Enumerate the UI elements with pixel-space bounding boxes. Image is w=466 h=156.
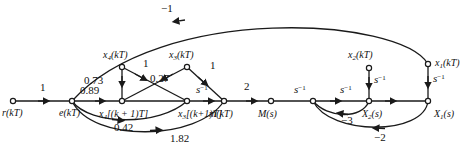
gain-label-s-inverse-b: s−1 xyxy=(294,84,306,95)
node-label-e: e(kT) xyxy=(59,108,80,118)
node-x4-next[interactable] xyxy=(119,98,124,103)
edge-X2s-to-junction-feedback xyxy=(313,101,369,115)
node-e[interactable] xyxy=(69,98,74,103)
gain-label-one-x4-to-x3next: 1 xyxy=(143,58,149,69)
node-label-x2-kT: x2(kT) xyxy=(348,50,373,62)
node-x1-kT[interactable] xyxy=(425,61,430,66)
node-x3-kT[interactable] xyxy=(184,64,189,69)
node-X2-s[interactable] xyxy=(366,98,371,103)
gain-label-one-x3-to-m: 1 xyxy=(210,60,216,71)
node-label-x4-next: x4[(k + 1)T] xyxy=(99,109,148,121)
gain-label-s-inverse-a: s−1 xyxy=(196,84,208,95)
node-M-s[interactable] xyxy=(268,98,273,103)
gain-label-0-89: 0.89 xyxy=(80,85,99,96)
node-x4-kT[interactable] xyxy=(119,64,124,69)
gain-label-neg-3: −3 xyxy=(341,115,353,126)
node-label-r: r(kT) xyxy=(2,108,23,118)
node-label-m: m(kT) xyxy=(209,109,233,119)
node-label-X2-s: X2(s) xyxy=(362,109,382,121)
gain-label-0-73: 0.73 xyxy=(84,75,103,86)
node-label-X1-s: X1(s) xyxy=(434,109,454,121)
gain-label-r-to-e: 1 xyxy=(40,82,46,93)
node-label-x3-kT: x3(kT) xyxy=(169,50,194,62)
gain-label-neg-2: −2 xyxy=(374,132,386,143)
gain-label-2: 2 xyxy=(244,81,250,92)
gain-label-neg-1: −1 xyxy=(161,3,173,14)
node-x3-next[interactable] xyxy=(184,98,189,103)
node-junction[interactable] xyxy=(310,98,315,103)
gain-label-s-inverse-c: s−1 xyxy=(340,84,352,95)
gain-label-0-27: 0.27 xyxy=(150,73,169,84)
node-r[interactable] xyxy=(10,98,15,103)
gain-label-s-inverse-x1: s−1 xyxy=(433,73,445,84)
node-X1-s[interactable] xyxy=(425,98,430,103)
signal-flow-graph-figure: r(kT) e(kT) x4[(k + 1)T] x3[(k+1)T] m(kT… xyxy=(0,0,466,156)
node-label-M-s: M(s) xyxy=(258,109,277,119)
node-m[interactable] xyxy=(221,98,226,103)
node-label-x1-kT: x1(kT) xyxy=(435,58,460,70)
gain-label-s-inverse-x2: s−1 xyxy=(374,74,386,85)
gain-label-1-82: 1.82 xyxy=(170,133,189,144)
node-label-x4-kT: x4(kT) xyxy=(103,50,128,62)
node-x2-kT[interactable] xyxy=(366,65,371,70)
gain-label-0-42: 0.42 xyxy=(114,122,133,133)
graph-canvas xyxy=(0,0,466,156)
